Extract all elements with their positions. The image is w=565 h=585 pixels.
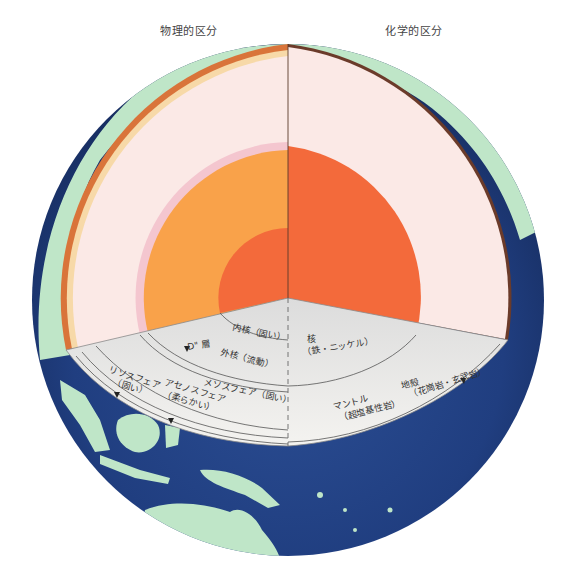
label-core-chem-1: 核: [307, 333, 316, 344]
earth-cross-section: 内核（固い） 外核（流動） D" 層 核 （鉄・ニッケル） リソスフェア （固い…: [0, 0, 565, 585]
physical-section: [61, 44, 288, 350]
chemical-section: [288, 44, 511, 340]
earth-structure-diagram: 物理的区分 化学的区分: [0, 0, 565, 585]
